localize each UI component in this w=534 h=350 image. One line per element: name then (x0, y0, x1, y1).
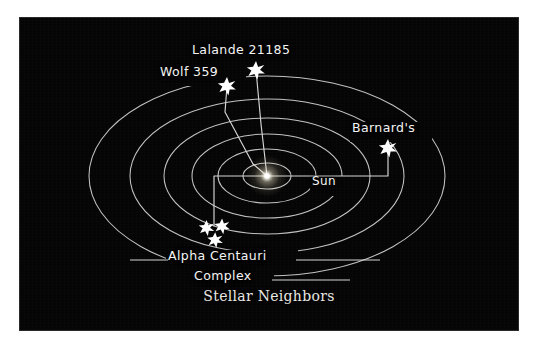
star-map-canvas (20, 18, 518, 330)
label-leader-rules (130, 260, 380, 280)
label-lalande-21185: Lalande 21185 (192, 42, 290, 57)
connector-lines (214, 70, 388, 226)
label-barnards: Barnard's (352, 120, 415, 135)
star-map-panel: Lalande 21185 Wolf 359 Barnard's Sun Alp… (20, 18, 518, 330)
sun-core (264, 173, 269, 178)
label-wolf-359: Wolf 359 (160, 64, 218, 79)
label-alpha-centauri-line1: Alpha Centauri (168, 248, 267, 263)
label-alpha-centauri-line2: Complex (194, 268, 252, 283)
label-sun: Sun (312, 174, 336, 188)
figure-root: Lalande 21185 Wolf 359 Barnard's Sun Alp… (0, 0, 534, 350)
figure-caption: Stellar Neighbors (20, 288, 518, 304)
